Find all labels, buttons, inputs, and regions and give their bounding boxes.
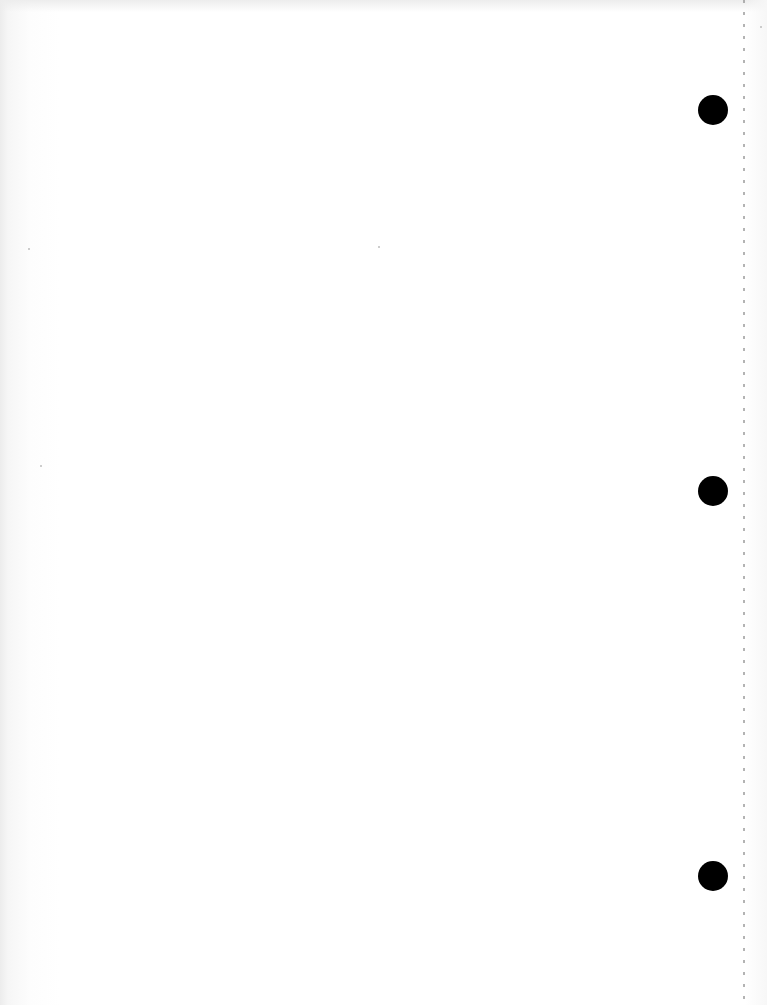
scan-speck (378, 246, 380, 248)
perforation-line (743, 0, 745, 1005)
scan-speck (40, 465, 42, 467)
scan-speck (760, 26, 762, 28)
top-edge-shadow (0, 0, 767, 12)
punch-hole-bottom (698, 861, 728, 891)
scanned-page (0, 0, 767, 1005)
right-margin-strip (745, 0, 767, 1005)
punch-hole-top (698, 95, 728, 125)
scan-speck (28, 248, 30, 250)
punch-hole-middle (698, 476, 728, 506)
